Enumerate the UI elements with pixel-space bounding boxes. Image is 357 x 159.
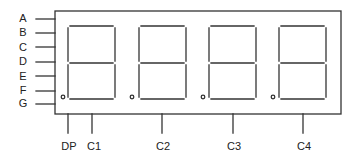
digit-2	[130, 26, 186, 99]
decimal-point-2	[130, 95, 134, 99]
digit-1	[61, 26, 115, 99]
pin-label-a: A	[19, 13, 26, 24]
pin-label-d: D	[19, 56, 27, 67]
decimal-point-1	[61, 95, 65, 99]
pin-label-f: F	[20, 85, 27, 96]
decimal-point-3	[201, 95, 205, 99]
seven-segment-diagram: A B C D E F G DP C1 C2 C3 C4	[0, 0, 357, 159]
pin-label-c3: C3	[227, 141, 241, 152]
pin-label-c: C	[19, 42, 27, 53]
digit-4	[271, 26, 326, 99]
pin-label-g: G	[19, 98, 28, 109]
diagram-drawing	[0, 0, 357, 159]
pin-label-c1: C1	[87, 141, 101, 152]
pin-label-e: E	[19, 71, 26, 82]
pin-label-b: B	[19, 27, 26, 38]
pin-label-c2: C2	[156, 141, 170, 152]
digit-3	[201, 26, 256, 99]
pin-label-c4: C4	[297, 141, 311, 152]
decimal-point-4	[271, 95, 275, 99]
pin-label-dp: DP	[61, 141, 76, 152]
